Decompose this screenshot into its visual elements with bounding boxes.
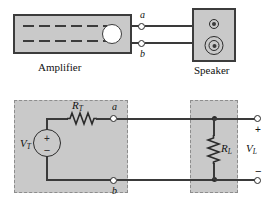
wire-rt-to-terminal-a	[96, 118, 111, 120]
voltage-source-symbol: + −	[33, 129, 61, 157]
large-speaker-driver-icon	[205, 36, 224, 55]
speaker-label: Speaker	[194, 65, 229, 76]
source-label-main: V	[20, 137, 27, 149]
output-voltage-label: VL	[246, 143, 257, 155]
wire-source-to-terminal-b	[46, 179, 111, 181]
terminal-a-label-circuit: a	[112, 102, 117, 112]
wire-source-to-rt	[46, 118, 68, 120]
terminal-b-label-circuit: b	[112, 186, 117, 196]
wire-load-lower-stub	[213, 163, 215, 180]
amplifier-box	[13, 14, 132, 54]
wire-to-output-minus	[215, 179, 255, 181]
output-terminal-negative[interactable]	[254, 177, 261, 184]
load-resistor-rl	[205, 135, 222, 164]
figure-canvas: Amplifier a b Speaker + − VT	[0, 0, 274, 200]
load-resistor-label: RL	[221, 143, 232, 155]
terminal-b-label-top: b	[140, 49, 145, 59]
source-plus-sign: +	[34, 134, 60, 144]
source-label: VT	[20, 138, 31, 150]
amplifier-label: Amplifier	[38, 62, 81, 73]
output-plus-sign: +	[255, 125, 261, 135]
wire-source-bottom-stub	[46, 156, 48, 180]
rt-label-main: R	[72, 99, 79, 111]
round-knob-icon	[102, 24, 122, 44]
source-minus-sign: −	[34, 145, 60, 156]
terminal-a-circuit[interactable]	[110, 115, 117, 122]
vl-label-subscript: L	[253, 147, 257, 156]
terminal-a-label-top: a	[140, 10, 145, 20]
amplifier-vent-row-bottom	[23, 40, 107, 42]
wire-b-to-speaker	[145, 42, 193, 44]
series-resistor-label: RT	[72, 100, 83, 112]
source-label-subscript: T	[27, 142, 31, 151]
wire-load-upper-stub	[213, 118, 215, 136]
speaker-box	[192, 8, 236, 62]
terminal-a-top[interactable]	[138, 23, 145, 30]
wire-b-to-load	[117, 179, 215, 181]
rt-label-subscript: T	[79, 104, 83, 113]
wire-to-output-plus	[215, 118, 255, 120]
output-terminal-positive[interactable]	[254, 115, 261, 122]
rl-label-main: R	[221, 142, 228, 154]
terminal-b-circuit[interactable]	[110, 177, 117, 184]
vl-label-main: V	[246, 142, 253, 154]
rl-label-subscript: L	[228, 147, 232, 156]
wire-a-to-load	[117, 118, 215, 120]
amplifier-vent-row-top	[23, 25, 107, 27]
small-speaker-driver-icon	[209, 19, 219, 29]
terminal-b-top[interactable]	[138, 40, 145, 47]
output-minus-sign: −	[255, 166, 261, 177]
wire-a-to-speaker	[145, 25, 193, 27]
